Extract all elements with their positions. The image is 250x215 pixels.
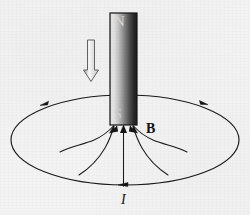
downward-motion-arrow xyxy=(84,40,99,82)
downward-motion-arrow-group xyxy=(84,40,99,82)
physics-figure-magnet-loop: N S B I xyxy=(0,0,250,215)
magnetic-field-label: B xyxy=(146,122,155,136)
loop-arrowhead-left xyxy=(40,101,49,105)
current-label: I xyxy=(121,193,126,207)
loop-arrowhead-right xyxy=(199,101,208,105)
field-line-inner-left xyxy=(79,126,114,175)
figure-canvas xyxy=(0,0,250,215)
magnet-south-pole-label: S xyxy=(114,108,122,122)
magnet-north-pole-label: N xyxy=(114,14,125,29)
magnetic-field-lines-group xyxy=(60,125,187,187)
field-line-arrowhead-center xyxy=(120,125,127,134)
